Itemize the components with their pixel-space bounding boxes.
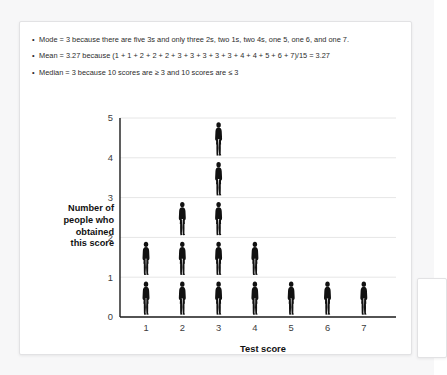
y-axis-label-line: Number of — [36, 203, 114, 215]
person-icon — [179, 202, 186, 235]
person-icon — [179, 242, 186, 275]
x-axis-tick-label: 7 — [361, 322, 366, 333]
person-icon — [143, 281, 150, 314]
adjacent-card-sliver — [417, 278, 447, 358]
person-icon — [324, 281, 331, 314]
person-icon — [215, 202, 222, 235]
person-icon — [360, 281, 367, 314]
pictogram-chart: Number of people who obtained this score… — [20, 22, 412, 355]
y-axis-tick-label: 5 — [108, 112, 113, 123]
person-icon — [288, 281, 295, 314]
person-icon — [215, 162, 222, 195]
x-axis-tick-label: 5 — [289, 322, 294, 333]
person-icon — [251, 281, 258, 314]
x-axis-tick-label: 4 — [252, 322, 257, 333]
y-axis-tick-label: 0 — [108, 311, 113, 322]
x-axis-tick-label: 6 — [325, 322, 330, 333]
y-axis-label-line: obtained — [36, 227, 114, 239]
y-axis-tick-label: 3 — [108, 192, 113, 203]
person-icon — [215, 281, 222, 314]
x-axis-tick-label: 3 — [216, 322, 221, 333]
person-icon — [215, 242, 222, 275]
person-icon — [179, 281, 186, 314]
person-icon — [215, 122, 222, 155]
y-axis-label-line: this score — [36, 238, 114, 250]
y-axis-label: Number of people who obtained this score — [36, 203, 114, 250]
x-axis-tick-label: 1 — [143, 322, 148, 333]
person-icon — [143, 242, 150, 275]
x-axis-tick-label: 2 — [180, 322, 185, 333]
y-axis-tick-label: 1 — [108, 272, 113, 283]
y-axis-tick-label: 4 — [108, 152, 113, 163]
plot-area: 0123451234567 — [20, 22, 412, 355]
person-icon — [251, 242, 258, 275]
y-axis-label-line: people who — [36, 215, 114, 227]
content-card: • Mode = 3 because there are five 3s and… — [19, 21, 412, 355]
x-axis-label: Test score — [120, 344, 406, 354]
